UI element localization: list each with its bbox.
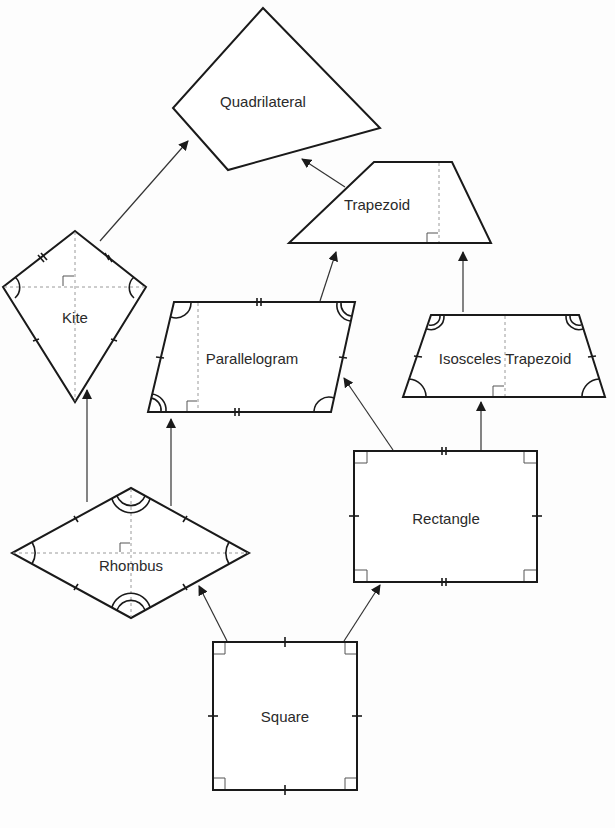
diagram-svg [0, 0, 615, 828]
quadrilateral-label: Quadrilateral [220, 93, 306, 110]
arrow-square-to-rhombus [199, 586, 227, 641]
arrow-trapezoid-to-quadrilateral [302, 159, 345, 187]
parallelogram-label: Parallelogram [206, 350, 299, 367]
square-label: Square [261, 708, 309, 725]
trapezoid-label: Trapezoid [344, 196, 410, 213]
arrow-kite-to-quadrilateral [100, 141, 188, 241]
rhombus-label: Rhombus [99, 557, 163, 574]
arrow-parallelogram-to-trapezoid [320, 252, 336, 301]
rectangle-label: Rectangle [412, 510, 480, 527]
arrow-square-to-rectangle [344, 585, 380, 641]
kite-label: Kite [62, 309, 88, 326]
quadrilateral-hierarchy-diagram: Quadrilateral Trapezoid Kite Parallelogr… [0, 0, 615, 828]
rhombus-shape [12, 488, 249, 618]
isosceles-trapezoid-label: Isosceles Trapezoid [439, 350, 572, 367]
quadrilateral-shape [173, 8, 380, 170]
arrow-rectangle-to-parallelogram [344, 378, 393, 450]
